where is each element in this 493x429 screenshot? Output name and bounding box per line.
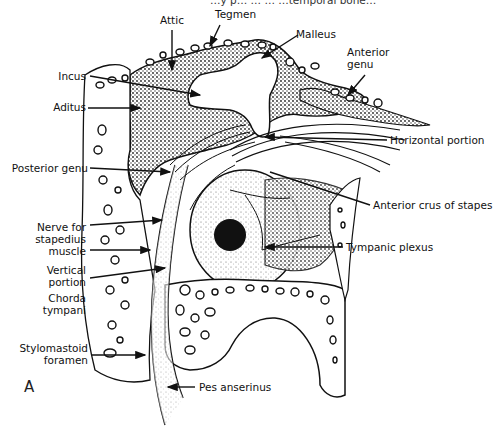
anterior-genu-bone — [300, 88, 430, 126]
lower-bone-block — [165, 279, 345, 397]
label-posterior-genu: Posterior genu — [0, 162, 88, 174]
label-stylomastoid-foramen: Stylomastoid foramen — [8, 342, 88, 366]
panel-letter: A — [24, 378, 34, 396]
label-anterior-crus-of-stapes: Anterior crus of stapes — [373, 199, 492, 211]
label-attic: Attic — [160, 14, 184, 26]
label-horizontal-portion: Horizontal portion — [390, 134, 484, 146]
anatomy-figure: …y p… … … …temporal bone… Attic Tegmen M… — [0, 0, 493, 429]
label-tympanic-plexus: Tympanic plexus — [346, 241, 433, 253]
label-pes-anserinus: Pes anserinus — [199, 381, 271, 393]
round-window — [214, 219, 246, 251]
label-nerve-for-stapedius-muscle: Nerve for stapedius muscle — [10, 221, 86, 257]
label-vertical-portion: Vertical portion — [20, 264, 86, 288]
label-chorda-tympani: Chorda tympani — [20, 292, 86, 316]
label-tegmen: Tegmen — [215, 8, 256, 20]
label-aditus: Aditus — [30, 101, 86, 113]
label-incus: Incus — [30, 70, 86, 82]
cut-off-caption: …y p… … … …temporal bone… — [210, 0, 376, 6]
label-malleus: Malleus — [296, 28, 336, 40]
label-anterior-genu: Anterior genu — [347, 46, 407, 70]
